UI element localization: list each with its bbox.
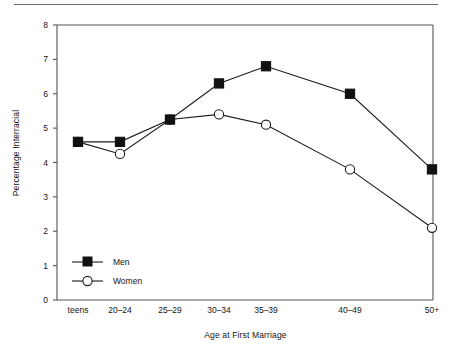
data-point-marker-women [115,149,124,158]
x-tick-label: teens [68,305,89,315]
data-point-marker-women [427,223,436,232]
data-point-marker-women [261,120,270,129]
y-tick-label: 6 [34,89,48,99]
legend-label-women: Women [113,276,142,286]
data-point-marker-men [115,137,124,146]
series-line-men [78,66,432,169]
x-tick-label: 30–34 [207,305,231,315]
x-tick-label: 35–39 [254,305,278,315]
y-tick-label: 5 [34,123,48,133]
legend-swatches [72,257,103,286]
y-tick-label: 1 [34,261,48,271]
legend-marker-men-icon [83,257,92,266]
series-men [73,62,436,174]
legend-label-men: Men [113,257,130,267]
y-axis-ticks [53,25,57,300]
data-point-marker-men [214,79,223,88]
x-tick-label: 50+ [425,305,439,315]
y-tick-label: 2 [34,226,48,236]
y-tick-label: 0 [34,295,48,305]
y-tick-label: 7 [34,54,48,64]
x-tick-label: 25–29 [158,305,182,315]
data-point-marker-men [73,137,82,146]
data-point-marker-men [427,165,436,174]
series-line-women [78,114,432,227]
data-point-marker-men [165,115,174,124]
y-tick-label: 8 [34,20,48,30]
legend-marker-women-icon [83,276,92,285]
x-tick-label: 40–49 [338,305,362,315]
y-axis-title: Percentage Interracial [11,93,21,213]
data-point-marker-women [214,110,223,119]
data-point-marker-men [261,62,270,71]
data-point-marker-men [345,89,354,98]
data-point-marker-women [345,165,354,174]
x-tick-label: 20–24 [108,305,132,315]
chart-figure: Percentage Interracial Age at First Marr… [0,0,452,357]
y-tick-label: 3 [34,192,48,202]
y-tick-label: 4 [34,158,48,168]
x-axis-title: Age at First Marriage [57,330,434,340]
line-chart-plot [0,0,452,357]
series-women [73,110,436,233]
